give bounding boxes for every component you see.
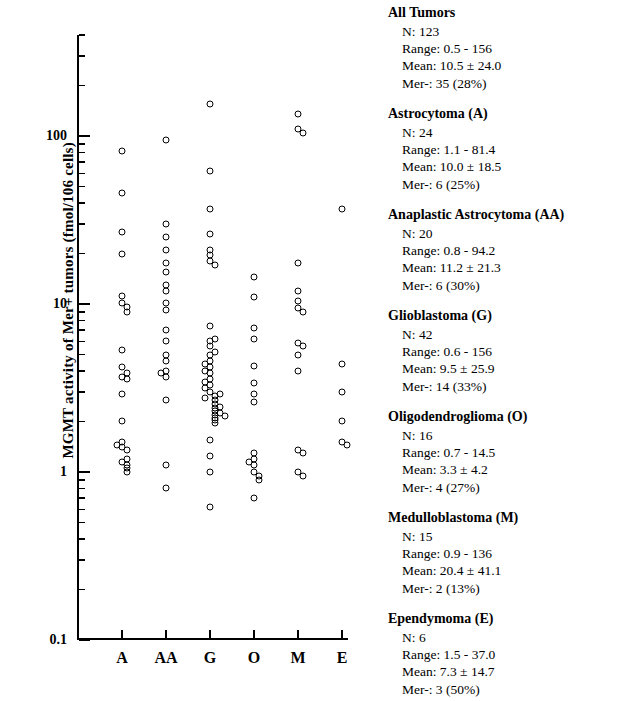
data-point [202,385,209,392]
data-point [119,228,126,235]
legend-n-line: N: 16 [388,427,626,444]
legend-range-line: Range: 1.5 - 37.0 [388,646,626,663]
data-point [207,452,214,459]
data-point [217,391,224,398]
data-point [300,129,307,136]
data-point [207,167,214,174]
data-point [251,495,258,502]
legend-n-line: N: 20 [388,225,626,242]
legend-group: All TumorsN: 123Range: 0.5 - 156Mean: 10… [388,4,626,92]
data-point [163,485,170,492]
data-point [300,449,307,456]
y-tick-minor [79,173,85,175]
legend-group: Glioblastoma (G)N: 42Range: 0.6 - 156Mea… [388,307,626,395]
data-point [222,413,229,420]
x-tick-label: AA [154,649,177,667]
data-point [295,260,302,267]
x-axis-line [77,638,348,640]
y-tick-minor [79,55,85,57]
data-point [163,137,170,144]
legend-mer-line: Mer-: 14 (33%) [388,378,626,395]
data-point [207,100,214,107]
data-point [251,273,258,280]
legend-range-line: Range: 0.6 - 156 [388,343,626,360]
y-tick-major [79,639,90,641]
legend-n-line: N: 6 [388,629,626,646]
legend-range-line: Range: 1.1 - 81.4 [388,141,626,158]
y-tick-minor [79,370,85,372]
y-tick-minor [79,354,85,356]
y-tick-minor [79,488,85,490]
legend-group: Oligodendroglioma (O)N: 16Range: 0.7 - 1… [388,408,626,496]
y-tick-minor [79,253,85,255]
legend-mer-line: Mer-: 4 (27%) [388,479,626,496]
y-tick-minor [79,85,85,87]
x-tick-label: E [337,649,348,667]
legend-group-title: Glioblastoma (G) [388,307,626,325]
y-tick-minor [79,186,85,188]
data-point [163,307,170,314]
x-tick [253,630,255,638]
legend-range-line: Range: 0.9 - 136 [388,545,626,562]
data-point [163,462,170,469]
legend-range-line: Range: 0.7 - 14.5 [388,444,626,461]
data-point [300,308,307,315]
x-tick-label: O [248,649,260,667]
y-tick-minor [79,34,85,36]
data-point [124,447,131,454]
data-point [339,360,346,367]
legend-mer-line: Mer-: 2 (13%) [388,580,626,597]
data-point [163,396,170,403]
data-point [295,287,302,294]
legend-n-line: N: 24 [388,124,626,141]
data-point [124,369,131,376]
y-tick-major [79,303,90,305]
data-point [207,469,214,476]
legend-group: Astrocytoma (A)N: 24Range: 1.1 - 81.4Mea… [388,105,626,193]
data-point [207,437,214,444]
legend-group: Anaplastic Astrocytoma (AA)N: 20Range: 0… [388,206,626,294]
data-point [207,231,214,238]
legend: All TumorsN: 123Range: 0.5 - 156Mean: 10… [388,4,626,701]
data-point [251,391,258,398]
legend-mean-line: Mean: 10.5 ± 24.0 [388,57,626,74]
x-tick [165,630,167,638]
data-point [163,260,170,267]
y-tick-minor [79,559,85,561]
data-point [202,378,209,385]
y-tick-label: 10 [53,296,67,312]
y-tick-minor [79,479,85,481]
x-tick [297,630,299,638]
data-point [212,262,219,269]
data-point [295,367,302,374]
data-point [251,325,258,332]
legend-mean-line: Mean: 7.3 ± 14.7 [388,663,626,680]
data-point [251,362,258,369]
data-point [212,420,219,427]
y-tick-minor [79,589,85,591]
legend-mean-line: Mean: 9.5 ± 25.9 [388,360,626,377]
data-point [295,351,302,358]
y-tick-minor [79,311,85,313]
legend-n-line: N: 15 [388,528,626,545]
data-point [114,441,121,448]
data-point [300,343,307,350]
data-point [202,395,209,402]
data-point [163,338,170,345]
data-point [251,294,258,301]
data-point [119,418,126,425]
x-tick [209,630,211,638]
data-point [119,347,126,354]
y-tick-minor [79,522,85,524]
data-point [124,455,131,462]
x-tick [341,630,343,638]
data-point [119,250,126,257]
legend-mer-line: Mer-: 3 (50%) [388,681,626,698]
y-tick-minor [79,152,85,154]
legend-group-title: Oligodendroglioma (O) [388,408,626,426]
data-point [124,308,131,315]
y-tick-label: 0.1 [50,632,68,648]
data-point [339,418,346,425]
data-point [295,297,302,304]
